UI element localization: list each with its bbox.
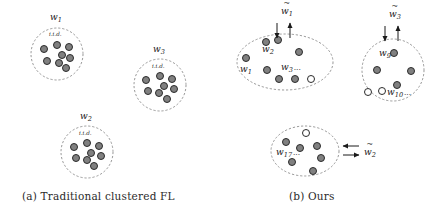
cluster-group2-global-label: w2~ [364, 140, 376, 159]
figure-root: w1i.i.d.w3i.i.d.w2i.i.d.w2w1w3...w1~w9w1… [0, 0, 443, 221]
node-label-w2-text: w2 [262, 44, 274, 56]
node-label-w17: w17... [276, 147, 300, 159]
cluster-group3: w9w10...w3~ [362, 2, 424, 101]
client-node [84, 140, 91, 147]
client-node [169, 76, 176, 83]
cluster-w3-label: w3 [153, 44, 165, 56]
client-node [44, 58, 51, 65]
client-node [84, 157, 91, 164]
node-label-w9: w9 [379, 48, 391, 60]
client-node [91, 163, 98, 170]
cluster-group3-global-label: w3~ [389, 2, 401, 21]
cluster-group1-global-label: w1~ [281, 0, 293, 18]
client-node [143, 77, 150, 84]
node-label-w2: w2 [262, 44, 274, 56]
cluster-w3-label-text: w3 [153, 44, 165, 56]
client-node [276, 76, 283, 83]
client-node [314, 143, 321, 150]
client-node [145, 88, 152, 95]
client-node [161, 83, 168, 90]
client-node [408, 68, 415, 75]
cluster-group3-global-label-tilde: ~ [391, 2, 398, 11]
cluster-group2-global-label-tilde: ~ [366, 140, 373, 149]
client-node [164, 96, 171, 103]
node-label-w17-text: w17... [276, 147, 300, 159]
figure-canvas: w1i.i.d.w3i.i.d.w2i.i.d.w2w1w3...w1~w9w1… [0, 0, 443, 221]
client-node [63, 65, 70, 72]
cluster-group1: w2w1w3...w1~ [237, 0, 333, 90]
client-node [67, 55, 74, 62]
client-node [303, 130, 310, 137]
node-label-w9-text: w9 [379, 48, 391, 60]
cluster-w1-label: w1 [50, 12, 62, 24]
client-node [157, 73, 164, 80]
client-node [59, 52, 66, 59]
cluster-w1: w1i.i.d. [31, 12, 83, 80]
node-label-w3-text: w3... [281, 62, 301, 74]
cluster-group1-global-label-tilde: ~ [283, 0, 290, 8]
cluster-w1-iid-label: i.i.d. [49, 31, 62, 37]
cluster-w2-label: w2 [80, 111, 92, 123]
client-node [96, 143, 103, 150]
client-node [54, 42, 61, 49]
client-node [275, 37, 282, 44]
cluster-group2: w17...w2~ [271, 126, 376, 176]
client-node [374, 67, 381, 74]
client-node [98, 153, 105, 160]
client-node [66, 44, 73, 51]
client-node [283, 139, 290, 146]
client-node [308, 76, 315, 83]
cluster-w3: w3i.i.d. [134, 44, 186, 111]
client-node [310, 168, 317, 175]
cluster-w1-label-text: w1 [50, 12, 62, 24]
panel-b-caption: (b) Ours [289, 190, 335, 202]
client-node [71, 144, 78, 151]
client-node [41, 46, 48, 53]
panel-a-caption: (a) Traditional clustered FL [22, 190, 175, 202]
cluster-w2-iid-label: i.i.d. [79, 130, 92, 136]
client-node [292, 76, 299, 83]
client-node [296, 49, 303, 56]
client-node [156, 90, 163, 97]
client-node [73, 155, 80, 162]
client-node [243, 55, 250, 62]
client-node [379, 88, 386, 95]
client-node [365, 89, 372, 96]
cluster-w3-iid-label: i.i.d. [152, 63, 165, 69]
client-node [56, 60, 63, 67]
panel-a: w1i.i.d.w3i.i.d.w2i.i.d. [31, 12, 186, 178]
node-label-w3: w3... [281, 62, 301, 74]
client-node [318, 155, 325, 162]
cluster-w2: w2i.i.d. [61, 111, 113, 178]
client-node [289, 159, 296, 166]
panel-b: w2w1w3...w1~w9w10...w3~w17...w2~ [237, 0, 424, 176]
client-node [88, 150, 95, 157]
client-node [391, 50, 398, 57]
client-node [264, 67, 271, 74]
cluster-w2-label-text: w2 [80, 111, 92, 123]
client-node [171, 86, 178, 93]
